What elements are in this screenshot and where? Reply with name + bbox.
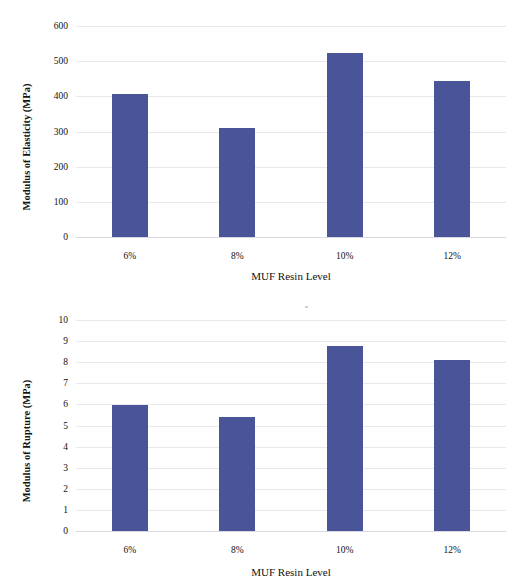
chart-modulus-of-elasticity: Modulus of Elasticity (MPa) 010020030040… xyxy=(0,0,528,294)
y-axis-tick-label: 9 xyxy=(0,336,68,346)
bar-8pct xyxy=(219,417,255,531)
x-axis-tick-label: 12% xyxy=(399,250,507,262)
x-axis-tick-labels-bottom: 6%8%10%12% xyxy=(76,544,506,556)
bar-12pct xyxy=(434,360,470,531)
bar-series-top xyxy=(76,26,506,237)
y-axis-tick-labels-top: 0100200300400500600 xyxy=(0,26,68,237)
y-axis-tick-label: 2 xyxy=(0,484,68,494)
x-axis-tick-label: 8% xyxy=(184,544,292,556)
bar-10pct xyxy=(327,53,363,237)
x-axis-tick-label: 6% xyxy=(76,544,184,556)
bar-cell xyxy=(76,26,184,237)
bar-6pct xyxy=(112,405,148,531)
chart-modulus-of-rupture: Modulus of Rupture (MPa) 012345678910 6%… xyxy=(0,294,528,588)
y-axis-tick-label: 600 xyxy=(0,21,68,31)
scan-speck xyxy=(305,306,308,308)
bar-cell xyxy=(291,26,399,237)
bar-cell xyxy=(291,320,399,531)
y-axis-tick-label: 400 xyxy=(0,91,68,101)
bar-6pct xyxy=(112,94,148,237)
x-axis-tick-label: 10% xyxy=(291,544,399,556)
y-axis-tick-label: 10 xyxy=(0,315,68,325)
x-axis-tick-label: 6% xyxy=(76,250,184,262)
y-axis-tick-label: 7 xyxy=(0,378,68,388)
x-axis-tick-label: 10% xyxy=(291,250,399,262)
x-axis-title-top: MUF Resin Level xyxy=(76,270,506,282)
bar-cell xyxy=(399,320,507,531)
x-axis-title-bottom: MUF Resin Level xyxy=(76,566,506,578)
bar-cell xyxy=(399,26,507,237)
y-axis-tick-label: 1 xyxy=(0,505,68,515)
bar-12pct xyxy=(434,81,470,237)
y-axis-tick-label: 3 xyxy=(0,463,68,473)
y-axis-tick-label: 5 xyxy=(0,421,68,431)
bar-cell xyxy=(184,26,292,237)
gridline xyxy=(76,237,506,238)
figure-page: Modulus of Elasticity (MPa) 010020030040… xyxy=(0,0,528,588)
plot-area-bottom xyxy=(76,320,506,531)
x-axis-tick-label: 8% xyxy=(184,250,292,262)
y-axis-tick-label: 300 xyxy=(0,127,68,137)
y-axis-tick-label: 8 xyxy=(0,357,68,367)
y-axis-tick-label: 4 xyxy=(0,442,68,452)
bar-cell xyxy=(76,320,184,531)
bar-series-bottom xyxy=(76,320,506,531)
y-axis-tick-label: 0 xyxy=(0,526,68,536)
y-axis-tick-label: 0 xyxy=(0,232,68,242)
x-axis-tick-labels-top: 6%8%10%12% xyxy=(76,250,506,262)
y-axis-tick-label: 100 xyxy=(0,197,68,207)
x-axis-tick-label: 12% xyxy=(399,544,507,556)
bar-cell xyxy=(184,320,292,531)
gridline xyxy=(76,531,506,532)
y-axis-tick-labels-bottom: 012345678910 xyxy=(0,320,68,531)
bar-8pct xyxy=(219,128,255,237)
plot-area-top xyxy=(76,26,506,237)
y-axis-tick-label: 500 xyxy=(0,56,68,66)
y-axis-tick-label: 200 xyxy=(0,162,68,172)
bar-10pct xyxy=(327,346,363,531)
y-axis-tick-label: 6 xyxy=(0,399,68,409)
